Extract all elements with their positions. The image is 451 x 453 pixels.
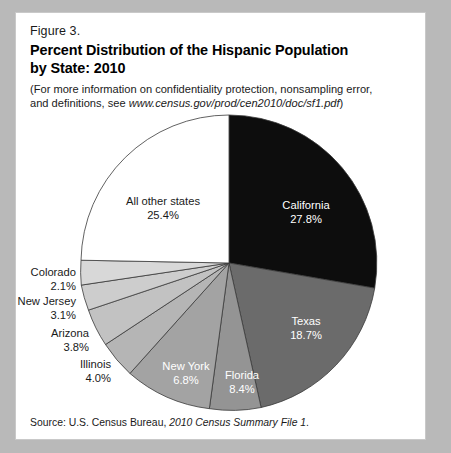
slice-value-illinois: 4.0%: [86, 372, 112, 384]
source-title: 2010 Census Summary File 1: [169, 417, 306, 428]
source-note: Source: U.S. Census Bureau, 2010 Census …: [30, 417, 309, 428]
slice-label-illinois: Illinois: [80, 358, 111, 370]
pie-slice-all-other-states[interactable]: [81, 115, 229, 263]
slice-value-arizona: 3.8%: [64, 341, 90, 353]
slice-label-florida: Florida: [225, 369, 260, 381]
slice-label-new-jersey: New Jersey: [18, 295, 77, 307]
figure-card: Figure 3. Percent Distribution of the Hi…: [15, 12, 426, 440]
slice-value-all-other-states: 25.4%: [147, 209, 179, 221]
source-suffix: .: [306, 417, 309, 428]
slice-label-texas: Texas: [291, 315, 321, 327]
pie-chart: California 27.8% Texas 18.7% Florida 8.4…: [16, 13, 425, 439]
slice-label-california: California: [282, 199, 330, 211]
slice-label-arizona: Arizona: [51, 327, 90, 339]
slice-value-colorado: 2.1%: [51, 280, 77, 292]
source-prefix: Source: U.S. Census Bureau,: [30, 417, 169, 428]
slice-value-new-york: 6.8%: [173, 374, 199, 386]
slice-label-new-york: New York: [162, 360, 210, 372]
slice-value-california: 27.8%: [290, 213, 322, 225]
slice-label-all-other-states: All other states: [126, 195, 200, 207]
slice-label-colorado: Colorado: [31, 266, 76, 278]
slice-value-new-jersey: 3.1%: [51, 309, 77, 321]
slice-value-florida: 8.4%: [229, 383, 255, 395]
slice-value-texas: 18.7%: [290, 329, 322, 341]
